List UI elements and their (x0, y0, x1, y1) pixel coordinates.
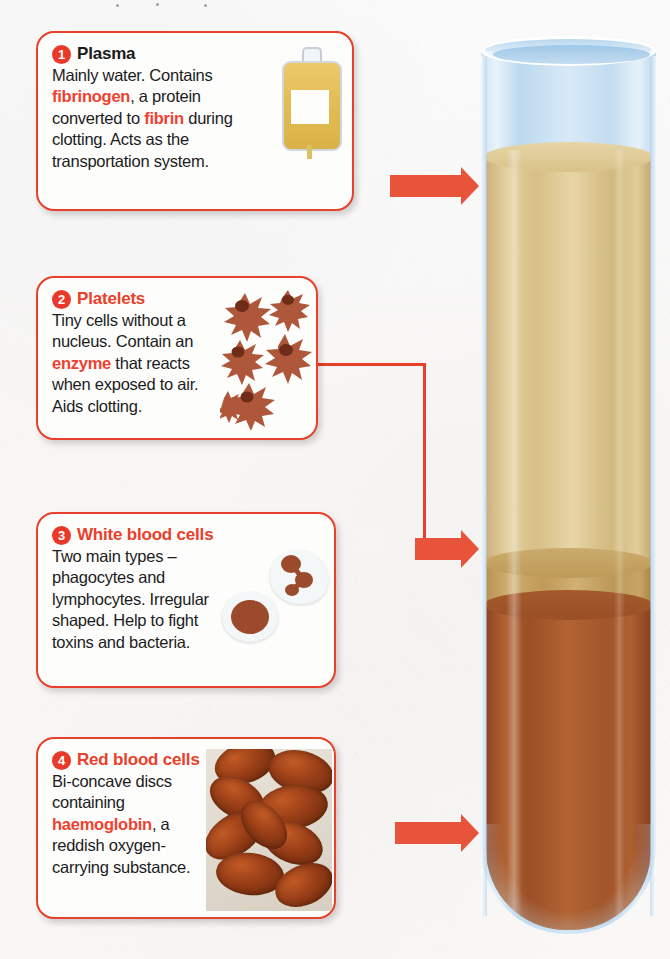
illustration-platelets (220, 290, 312, 430)
term-enzyme: enzyme (52, 354, 111, 372)
scan-artifact-dot (204, 4, 207, 7)
badge-number-1: 1 (52, 45, 71, 64)
card-white-blood-cells-title: White blood cells (77, 525, 213, 545)
card-red-blood-cells-body: Bi-concave discs containing haemoglobin,… (52, 771, 212, 878)
card-platelets[interactable]: 2 Platelets Tiny cells without a nucleus… (36, 276, 318, 440)
scan-artifact-dot (156, 3, 159, 6)
tube-specular-highlight (506, 150, 522, 930)
blood-bag-pouch (282, 61, 342, 151)
tube-edge-left (481, 56, 487, 916)
rbc-disc (232, 792, 296, 858)
card-platelets-heading: 2 Platelets (52, 289, 304, 309)
rbc-disc (206, 801, 272, 870)
text-fragment: Mainly water. Contains (52, 66, 213, 84)
card-white-blood-cells-heading: 3 White blood cells (52, 525, 322, 545)
rbc-disc (257, 813, 329, 873)
card-white-blood-cells-body: Two main types – phagocytes and lymphocy… (52, 546, 242, 653)
blood-bag-label (291, 90, 329, 124)
card-red-blood-cells[interactable]: 4 Red blood cells Bi-concave discs conta… (36, 737, 336, 919)
card-plasma-body: Mainly water. Contains fibrinogen, a pro… (52, 65, 252, 172)
term-fibrin: fibrin (144, 109, 184, 127)
card-platelets-body: Tiny cells without a nucleus. Contain an… (52, 310, 227, 417)
illustration-red-blood-cells (206, 749, 332, 911)
scan-artifact-dot (116, 4, 119, 7)
tube-rim (481, 36, 656, 66)
wbc-phagocyte-nucleus (270, 550, 330, 606)
tube-edge-right (650, 56, 656, 916)
term-fibrinogen: fibrinogen (52, 87, 130, 105)
arrow-plasma (390, 175, 462, 197)
card-white-blood-cells[interactable]: 3 White blood cells Two main types – pha… (36, 512, 336, 688)
card-plasma[interactable]: 1 Plasma Mainly water. Contains fibrinog… (36, 31, 354, 211)
card-plasma-title: Plasma (77, 44, 135, 64)
text-fragment: Bi-concave discs containing (52, 772, 172, 811)
rbc-disc (268, 855, 332, 911)
tube-specular-highlight-secondary (614, 150, 625, 930)
wbc-phagocyte (270, 550, 328, 604)
tube-rim-opening (493, 45, 650, 64)
text-fragment: Tiny cells without a nucleus. Contain an (52, 311, 193, 350)
blood-components-diagram: 1 Plasma Mainly water. Contains fibrinog… (0, 0, 670, 959)
badge-number-2: 2 (52, 290, 71, 309)
arrow-white-blood-cells (415, 538, 462, 560)
rbc-disc (206, 768, 272, 829)
term-haemoglobin: haemoglobin (52, 815, 152, 833)
connector-platelets-vertical (423, 363, 426, 548)
badge-number-4: 4 (52, 751, 71, 770)
rbc-disc (255, 780, 330, 833)
card-plasma-heading: 1 Plasma (52, 44, 340, 64)
tube-contents (486, 50, 651, 930)
platelets-svg (220, 290, 312, 430)
badge-number-3: 3 (52, 526, 71, 545)
card-red-blood-cells-heading: 4 Red blood cells (52, 750, 322, 770)
connector-platelets-horizontal (316, 363, 426, 366)
arrow-red-blood-cells (395, 822, 462, 844)
rbc-disc (214, 850, 286, 899)
test-tube (481, 36, 656, 934)
card-red-blood-cells-title: Red blood cells (77, 750, 200, 770)
blood-bag-drip-tube (307, 145, 312, 159)
card-platelets-title: Platelets (77, 289, 145, 309)
